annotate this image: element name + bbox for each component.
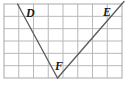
figure-background bbox=[0, 0, 131, 85]
vertex-label-f: F bbox=[54, 59, 63, 73]
vertex-label-d: D bbox=[25, 6, 35, 20]
geometry-figure: D E F bbox=[0, 0, 131, 85]
geometry-diagram: D E F bbox=[0, 0, 131, 85]
vertex-label-e: E bbox=[102, 5, 111, 19]
